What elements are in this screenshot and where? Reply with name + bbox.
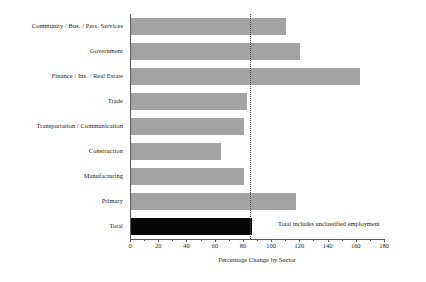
x-axis-tick-label: 160 [351, 243, 361, 249]
category-label: Community / Bus. / Pers. Services [32, 23, 123, 29]
x-axis-minor-tick [257, 239, 258, 241]
x-axis-minor-tick [229, 239, 230, 241]
category-label: Total [109, 223, 123, 229]
bar-total [131, 218, 252, 235]
category-label: Government [90, 48, 123, 54]
bar-government [131, 43, 300, 60]
bar-transportation-communication [131, 118, 244, 135]
category-label: Finance / Ins. / Real Estate [52, 73, 123, 79]
reference-line [250, 14, 251, 239]
bar-finance-ins-real-estate [131, 68, 360, 85]
x-axis-minor-tick [370, 239, 371, 241]
bar-primary [131, 193, 296, 210]
category-label: Construction [89, 148, 123, 154]
plot-area [130, 14, 384, 239]
category-label: Transportation / Communication [36, 123, 123, 129]
bar-chart: Community / Bus. / Pers. ServicesGovernm… [0, 0, 426, 282]
x-axis-tick-label: 180 [379, 243, 389, 249]
bar-manufacturing [131, 168, 244, 185]
x-axis-tick-label: 20 [155, 243, 161, 249]
x-axis-tick-label: 120 [295, 243, 305, 249]
category-label: Manufacturing [84, 173, 123, 179]
x-axis-tick-label: 140 [323, 243, 333, 249]
x-axis-tick-label: 60 [211, 243, 217, 249]
x-axis-tick-label: 100 [266, 243, 276, 249]
category-axis-labels: Community / Bus. / Pers. ServicesGovernm… [0, 14, 128, 239]
bar-trade [131, 93, 247, 110]
x-axis-minor-tick [172, 239, 173, 241]
category-label: Primary [102, 198, 123, 204]
x-axis-minor-tick [144, 239, 145, 241]
category-label: Trade [108, 98, 123, 104]
x-axis-title: Percentage Change by Sector [130, 256, 384, 263]
x-axis-tick-label: 0 [128, 243, 131, 249]
chart-annotation: Total includes unclassified employment [278, 220, 380, 227]
x-axis-minor-tick [342, 239, 343, 241]
x-axis-line [130, 239, 384, 240]
x-axis-minor-tick [313, 239, 314, 241]
bar-construction [131, 143, 221, 160]
x-axis-minor-tick [201, 239, 202, 241]
bar-community-bus-pers-services [131, 18, 286, 35]
x-axis-tick-label: 40 [183, 243, 189, 249]
x-axis-minor-tick [285, 239, 286, 241]
x-axis-tick-label: 80 [240, 243, 246, 249]
